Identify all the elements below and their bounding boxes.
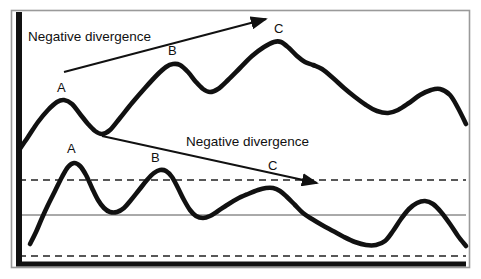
- divergence-annotation-1: Negative divergence: [28, 29, 151, 44]
- peak-label-b-price: B: [168, 43, 177, 58]
- peak-label-c-oscillator: C: [268, 158, 277, 173]
- peak-label-b-oscillator: B: [151, 150, 160, 165]
- chart-canvas: Negative divergenceNegative divergence A…: [0, 0, 481, 279]
- divergence-annotation-2: Negative divergence: [186, 134, 309, 149]
- divergence-chart-figure: Negative divergenceNegative divergence A…: [0, 0, 481, 279]
- peak-label-a-oscillator: A: [67, 141, 76, 156]
- peak-label-c-price: C: [274, 21, 283, 36]
- peak-label-a-price: A: [57, 80, 66, 95]
